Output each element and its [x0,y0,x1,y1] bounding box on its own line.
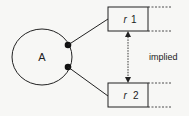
relation-r2-box [108,83,148,107]
relation-r1-label: r1 [124,14,137,25]
diagram-canvas: A r1 r2 implied [0,0,189,116]
relation-r1-box [108,7,148,31]
relation-r2: r2 [108,83,172,107]
link-a-r2 [68,67,108,96]
entity-a-label: A [38,51,46,63]
implied-label: implied [149,52,178,62]
link-a-r1 [68,19,108,45]
relation-r2-label: r2 [124,90,139,101]
relation-r1: r1 [108,7,172,31]
entity-a: A [12,29,72,85]
